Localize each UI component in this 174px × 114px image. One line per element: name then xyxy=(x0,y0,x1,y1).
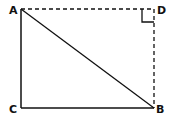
segment-ab xyxy=(21,9,154,108)
right-angle-marker-d xyxy=(142,9,154,22)
triangle-diagram: A B C D xyxy=(0,0,174,114)
label-c: C xyxy=(9,103,17,114)
label-b: B xyxy=(156,103,164,114)
label-a: A xyxy=(9,4,18,17)
label-d: D xyxy=(157,4,166,17)
